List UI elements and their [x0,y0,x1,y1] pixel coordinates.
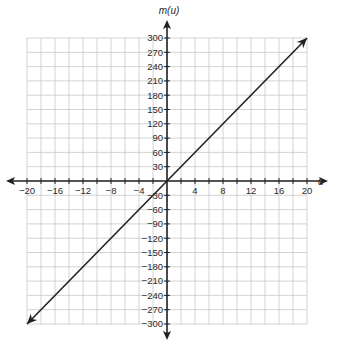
y-tick-label: 120 [147,118,163,129]
y-tick-label: 90 [152,132,163,143]
y-tick-label: 300 [147,32,163,43]
y-tick-label: 270 [147,47,163,58]
x-tick-label: 8 [220,185,225,196]
y-tick-label: −60 [147,204,163,215]
x-tick-label: −20 [19,185,35,196]
x-tick-label: −12 [75,185,91,196]
x-tick-label: 12 [246,185,257,196]
x-tick-label: 20 [302,185,313,196]
x-tick-label: −8 [106,185,117,196]
x-tick-label: −16 [47,185,63,196]
y-tick-label: −90 [147,218,163,229]
y-tick-label: 30 [152,161,163,172]
y-tick-label: −210 [142,275,163,286]
x-tick-label: 16 [274,185,285,196]
x-tick-label: 4 [192,185,197,196]
y-tick-label: −180 [142,261,163,272]
y-tick-label: 180 [147,90,163,101]
y-tick-label: 60 [152,147,163,158]
y-tick-label: −270 [142,304,163,315]
x-axis-label: u [318,176,324,187]
y-tick-label: −240 [142,290,163,301]
y-tick-label: −120 [142,233,163,244]
y-tick-label: 210 [147,75,163,86]
y-tick-label: −150 [142,247,163,258]
y-tick-label: 150 [147,104,163,115]
y-axis-label: m(u) [159,5,180,16]
x-tick-label: −4 [134,185,145,196]
line-chart: −20−16−12−8−448121620 300270240210180150… [0,0,340,344]
y-tick-label: −300 [142,318,163,329]
y-tick-label: 240 [147,61,163,72]
